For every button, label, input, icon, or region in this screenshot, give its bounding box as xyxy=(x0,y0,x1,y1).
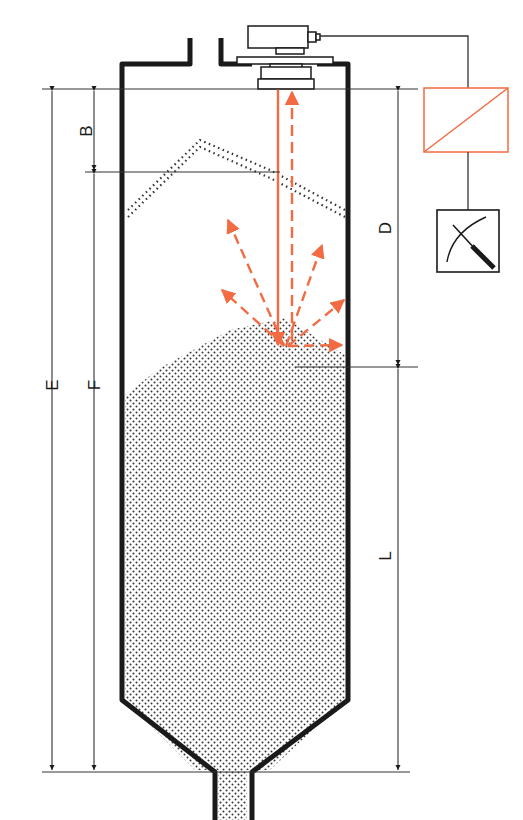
previous-level-outline xyxy=(128,140,345,217)
bulk-material xyxy=(125,318,345,820)
signal-converter xyxy=(424,88,508,152)
analog-meter-icon xyxy=(437,210,499,272)
dimension-label-d: D xyxy=(376,222,395,234)
dimension-label-e: E xyxy=(43,379,62,390)
silo-level-diagram: E F B D L xyxy=(0,0,523,820)
dimension-label-l: L xyxy=(376,551,395,560)
radar-signal xyxy=(222,89,344,346)
dimension-label-b: B xyxy=(77,125,96,136)
radar-sensor[interactable] xyxy=(237,26,333,89)
dimension-label-f: F xyxy=(85,380,104,390)
